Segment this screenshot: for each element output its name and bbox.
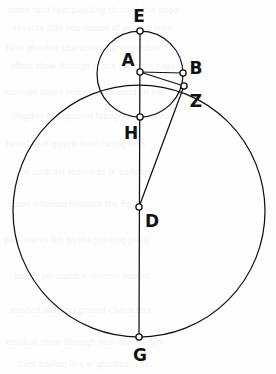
point-marker-z [181, 83, 187, 89]
diagram-canvas: EABZHDG [0, 0, 276, 374]
segment-Z-D [139, 86, 184, 207]
segment-E-G [139, 31, 140, 337]
point-marker-b [180, 70, 186, 76]
point-label-b: B [190, 58, 203, 78]
point-label-h: H [124, 123, 138, 143]
segments-group [139, 31, 184, 337]
point-labels-group: EABZHDG [121, 6, 202, 365]
point-marker-a [137, 69, 143, 75]
point-label-e: E [133, 6, 145, 26]
geometric-figure: faint trailing line of ghosted textresid… [0, 0, 276, 374]
point-label-g: G [133, 345, 147, 365]
point-markers-group [136, 28, 187, 340]
point-label-z: Z [190, 91, 202, 111]
point-marker-e [137, 28, 143, 34]
point-label-a: A [121, 50, 135, 70]
segment-A-B [140, 72, 183, 73]
point-marker-d [136, 204, 142, 210]
point-marker-h [137, 114, 143, 120]
point-marker-g [136, 334, 142, 340]
point-label-d: D [145, 211, 159, 231]
segment-A-Z [140, 72, 184, 86]
